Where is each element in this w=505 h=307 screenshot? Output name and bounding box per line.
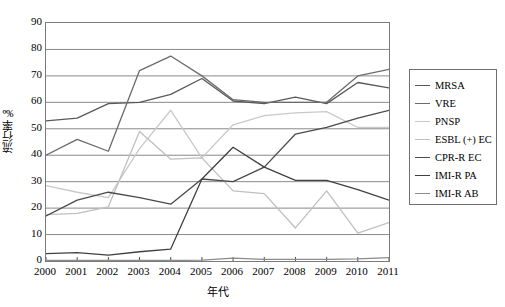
series-line xyxy=(46,110,389,197)
legend-label: IMI-R PA xyxy=(435,170,477,181)
legend-swatch-icon xyxy=(415,121,430,122)
legend-item[interactable]: MRSA xyxy=(410,76,496,94)
legend-item[interactable]: PNSP xyxy=(410,112,496,130)
legend-swatch-icon xyxy=(415,193,430,194)
y-tick-label: 10 xyxy=(2,228,42,239)
legend-item[interactable]: ESBL (+) EC xyxy=(410,130,496,148)
series-line xyxy=(46,147,389,255)
x-axis-title: 年代 xyxy=(45,283,390,299)
legend-item[interactable]: VRE xyxy=(410,94,496,112)
y-tick-label: 90 xyxy=(2,16,42,27)
chart-legend: MRSAVREPNSPESBL (+) ECCPR-R ECIMI-R PAIM… xyxy=(409,69,497,205)
legend-swatch-icon xyxy=(415,175,430,176)
chart-root: 流行率‰ 0102030405060708090 200020012002200… xyxy=(0,0,505,307)
legend-label: MRSA xyxy=(435,80,465,91)
y-tick-label: 60 xyxy=(2,95,42,106)
y-tick-label: 20 xyxy=(2,201,42,212)
y-tick-label: 30 xyxy=(2,175,42,186)
legend-label: VRE xyxy=(435,98,456,109)
plot-area xyxy=(45,22,390,262)
legend-item[interactable]: CPR-R EC xyxy=(410,148,496,166)
series-line xyxy=(46,56,389,155)
series-line xyxy=(46,258,389,261)
y-axis-tick-labels: 0102030405060708090 xyxy=(0,0,42,307)
legend-item[interactable]: IMI-R AB xyxy=(410,184,496,202)
series-line xyxy=(46,79,389,121)
x-tick-label: 2011 xyxy=(368,266,408,277)
y-tick-label: 80 xyxy=(2,42,42,53)
legend-label: ESBL (+) EC xyxy=(435,134,492,145)
y-tick-label: 50 xyxy=(2,122,42,133)
legend-swatch-icon xyxy=(415,157,430,158)
legend-swatch-icon xyxy=(415,139,430,140)
legend-label: PNSP xyxy=(435,116,460,127)
y-tick-label: 40 xyxy=(2,148,42,159)
y-tick-label: 0 xyxy=(2,254,42,265)
y-tick-label: 70 xyxy=(2,69,42,80)
legend-swatch-icon xyxy=(415,85,430,86)
legend-item[interactable]: IMI-R PA xyxy=(410,166,496,184)
legend-label: CPR-R EC xyxy=(435,152,481,163)
legend-swatch-icon xyxy=(415,103,430,104)
series-lines xyxy=(46,23,389,261)
legend-label: IMI-R AB xyxy=(435,188,478,199)
